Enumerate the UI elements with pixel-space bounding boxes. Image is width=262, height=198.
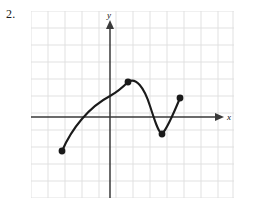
coordinate-grid-graph: x y — [31, 11, 234, 198]
problem-number: 2. — [6, 8, 15, 20]
graph-figure: x y — [31, 11, 234, 198]
point-local-minimum — [159, 131, 166, 138]
function-curve — [62, 81, 180, 151]
grid-lines — [31, 11, 234, 198]
point-left-endpoint — [59, 148, 66, 155]
point-local-maximum — [125, 79, 132, 86]
point-right-endpoint — [177, 95, 184, 102]
y-axis-arrow — [106, 20, 114, 29]
x-axis — [31, 113, 224, 121]
y-axis — [106, 20, 114, 198]
x-axis-arrow — [215, 113, 224, 121]
figure-page: 2. — [0, 0, 262, 198]
y-axis-label: y — [106, 11, 111, 20]
x-axis-label: x — [226, 112, 231, 122]
